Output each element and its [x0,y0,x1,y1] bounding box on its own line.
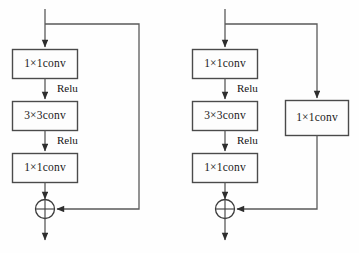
node-projection-conv-1x1-label: 1×1conv [296,111,338,123]
node-conv-3x3-label: 3×3conv [24,109,66,121]
node-conv-1x1-a-right-label: 1×1conv [204,57,246,69]
node-conv-3x3-right-label: 3×3conv [204,109,246,121]
block-identity-shortcut: 1×1conv Relu 3×3conv Relu 1×1conv [13,9,140,240]
residual-block-diagram: 1×1conv Relu 3×3conv Relu 1×1conv [0,0,359,253]
node-conv-1x1-a-label: 1×1conv [24,57,66,69]
edge-label-relu-1-right: Relu [237,82,258,94]
edge-label-relu-1: Relu [57,82,78,94]
edge-label-relu-2: Relu [57,134,78,146]
block-projection-shortcut: 1×1conv Relu 3×3conv Relu 1×1conv 1×1con… [193,9,349,240]
node-conv-1x1-b-right-label: 1×1conv [204,161,246,173]
diagram-canvas: 1×1conv Relu 3×3conv Relu 1×1conv [0,0,359,253]
node-conv-1x1-b-label: 1×1conv [24,161,66,173]
edge-label-relu-2-right: Relu [237,134,258,146]
